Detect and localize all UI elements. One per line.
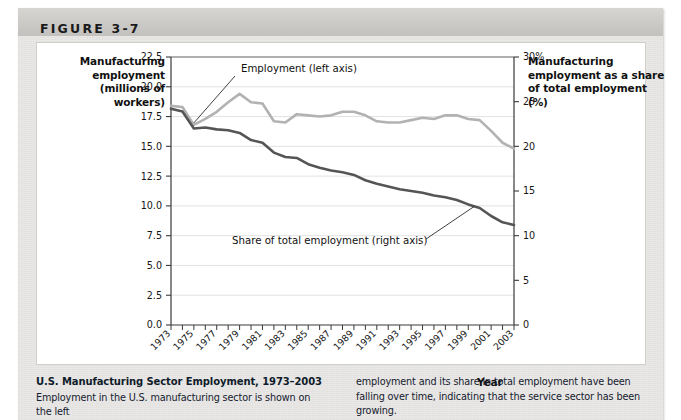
left-axis-tick-label: 22.5 [141,51,162,62]
right-axis-tick-label: 5 [523,275,529,286]
left-axis-tick-label: 15.0 [141,141,162,152]
x-axis-tick-label: 1985 [285,328,310,353]
annotation-employment-label: Employment (left axis) [241,63,357,74]
x-axis-tick-label: 1993 [377,328,402,353]
x-axis-tick-label: 1989 [331,328,356,353]
left-axis-tick-label: 10.0 [141,200,162,211]
caption-left-body: Employment in the U.S. manufacturing sec… [36,391,324,420]
right-axis-tick-label: 20 [523,141,535,152]
caption-title: U.S. Manufacturing Sector Employment, 19… [36,375,324,390]
chart-card: Manufacturing employment (millions of wo… [36,42,646,365]
x-axis-tick-label: 1991 [354,328,379,353]
right-axis-tick-label: 15 [523,185,535,196]
x-axis-tick-label: 2003 [491,328,516,353]
right-axis-tick-label: 25 [523,96,535,107]
annotation-share-label: Share of total employment (right axis) [232,235,427,246]
chart-plot: 0.02.55.07.510.012.515.017.520.022.50510… [37,43,647,366]
figure-label: FIGURE 3-7 [40,21,141,36]
x-axis-tick-label: 1977 [194,328,219,353]
caption-right-body: employment and its share in total employ… [356,375,644,419]
right-axis-tick-label: 10 [523,230,535,241]
annotation-leader-share [426,206,474,239]
right-axis-tick-label: 30% [523,51,544,62]
x-axis-tick-label: 1987 [308,328,333,353]
left-axis-tick-label: 17.5 [141,111,162,122]
x-axis-tick-label: 1995 [399,328,424,353]
left-axis-tick-label: 0.0 [147,319,162,330]
series-line-1 [171,94,514,149]
right-axis-tick-label: 0 [523,319,529,330]
x-axis-tick-label: 1981 [239,328,264,353]
left-axis-tick-label: 2.5 [147,290,162,301]
x-axis-tick-label: 1979 [216,328,241,353]
left-axis-tick-label: 12.5 [141,171,162,182]
x-axis-tick-label: 1999 [445,328,470,353]
x-axis-tick-label: 1975 [171,328,196,353]
x-axis-tick-label: 1997 [422,328,447,353]
left-axis-tick-label: 20.0 [141,81,162,92]
series-line-2 [171,109,514,225]
left-axis-tick-label: 7.5 [147,230,162,241]
x-axis-tick-label: 1983 [262,328,287,353]
caption-left-column: U.S. Manufacturing Sector Employment, 19… [36,375,324,420]
caption-right-column: employment and its share in total employ… [356,375,644,419]
figure-page: FIGURE 3-7 Manufacturing employment (mil… [0,0,681,420]
annotation-leader-employment [194,76,235,123]
figure-caption: U.S. Manufacturing Sector Employment, 19… [36,375,646,420]
x-axis-tick-label: 1973 [148,328,173,353]
left-axis-tick-label: 5.0 [147,260,162,271]
x-axis-tick-label: 2001 [468,328,493,353]
figure-header-bar: FIGURE 3-7 [18,8,663,36]
